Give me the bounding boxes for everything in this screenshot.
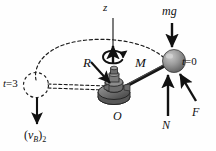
label-radius-R: R [83, 56, 91, 69]
label-time-final: t=3 [3, 78, 18, 89]
ghost-sphere-t3 [24, 73, 49, 98]
velocity-state-index: 2 [42, 135, 46, 144]
applied-force-arrow [180, 74, 196, 101]
radius-arrow [91, 62, 110, 83]
physics-figure: z mg M R O N F t=0 t=3 (vB)2 [0, 0, 216, 151]
label-mg: mg [162, 5, 177, 17]
label-z-axis: z [103, 2, 107, 13]
label-moment-M: M [135, 56, 146, 69]
label-time-final-value: =3 [6, 77, 18, 89]
label-origin-O: O [113, 110, 122, 122]
label-normal-N: N [162, 119, 170, 131]
label-velocity-vB2: (vB)2 [24, 129, 46, 144]
label-time-initial: t=0 [182, 56, 197, 67]
moment-rotation-arrow [103, 50, 127, 63]
label-force-F: F [192, 106, 199, 118]
label-time-initial-value: =0 [185, 55, 197, 67]
